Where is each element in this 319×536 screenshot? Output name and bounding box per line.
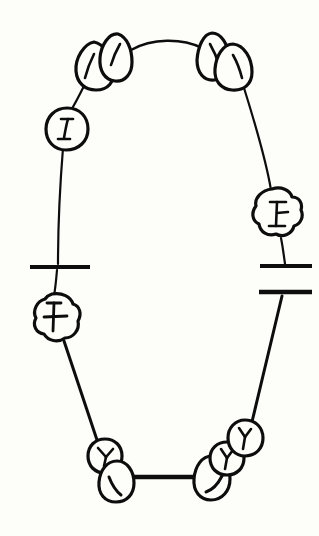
lower-left-central-incisor-outline — [99, 461, 134, 502]
tooth-upper-right-lateral-incisor[interactable] — [215, 44, 252, 90]
tooth-lower-left-molar[interactable] — [34, 294, 80, 341]
tooth-upper-left-central-incisor[interactable] — [100, 34, 132, 81]
tooth-lower-left-central-incisor[interactable] — [99, 461, 134, 502]
tooth-upper-left-molar[interactable] — [46, 108, 88, 150]
upper-right-lateral-incisor-outline — [215, 44, 252, 90]
tooth-lower-right-second-premolar[interactable] — [228, 420, 263, 456]
upper-left-molar-outline — [46, 108, 88, 150]
dental-chart-svg — [0, 0, 319, 536]
dental-chart-canvas — [0, 0, 319, 536]
upper-left-central-incisor-outline — [100, 34, 132, 81]
